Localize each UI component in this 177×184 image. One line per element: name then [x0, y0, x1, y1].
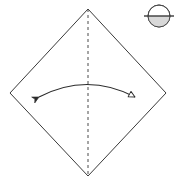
diagram-svg — [0, 0, 177, 184]
turn-over-symbol — [144, 5, 174, 27]
origami-diagram-canvas: Origami fold step diagram paper-sheet da… — [0, 0, 177, 184]
